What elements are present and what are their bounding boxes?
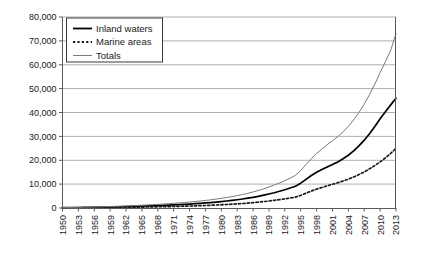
- x-tick-label: 2010: [376, 215, 386, 235]
- x-tick-label: 1959: [106, 215, 116, 235]
- legend: Inland watersMarine areasTotals: [67, 18, 163, 62]
- x-tick-label: 1980: [217, 215, 227, 235]
- x-tick-label: 1992: [280, 215, 290, 235]
- x-tick-label: 1977: [201, 215, 211, 235]
- line-chart: 010,00020,00030,00040,00050,00060,00070,…: [0, 0, 422, 263]
- y-tick-label: 10,000: [29, 179, 57, 189]
- x-tick-label: 1989: [264, 215, 274, 235]
- y-tick-label: 70,000: [29, 36, 57, 46]
- x-tick-label: 1971: [169, 215, 179, 235]
- x-tick-label: 1950: [58, 215, 68, 235]
- y-tick-label: 80,000: [29, 12, 57, 22]
- x-tick-label: 1998: [312, 215, 322, 235]
- x-axis-tick-labels: 1950195319561959196219651968197119741977…: [58, 215, 402, 235]
- x-tick-label: 1956: [90, 215, 100, 235]
- series-line-inland-waters: [63, 98, 397, 208]
- y-tick-label: 40,000: [29, 108, 57, 118]
- legend-label-marine-areas: Marine areas: [96, 36, 152, 47]
- legend-label-totals: Totals: [96, 50, 121, 61]
- x-tick-label: 1968: [153, 215, 163, 235]
- y-tick-label: 20,000: [29, 155, 57, 165]
- y-tick-label: 60,000: [29, 60, 57, 70]
- x-tick-label: 1965: [137, 215, 147, 235]
- y-tick-label: 50,000: [29, 84, 57, 94]
- x-tick-label: 1986: [249, 215, 259, 235]
- x-tick-label: 1974: [185, 215, 195, 235]
- x-tick-label: 1983: [233, 215, 243, 235]
- x-tick-label: 2007: [360, 215, 370, 235]
- x-tick-label: 1953: [74, 215, 84, 235]
- x-tick-label: 1995: [296, 215, 306, 235]
- x-tick-label: 2001: [328, 215, 338, 235]
- chart-figure: 010,00020,00030,00040,00050,00060,00070,…: [0, 0, 422, 263]
- x-tick-label: 1962: [121, 215, 131, 235]
- legend-label-inland-waters: Inland waters: [96, 23, 153, 34]
- x-tick-label: 2013: [391, 215, 401, 235]
- x-tick-label: 2004: [344, 215, 354, 235]
- y-tick-label: 30,000: [29, 132, 57, 142]
- y-axis-tick-labels: 010,00020,00030,00040,00050,00060,00070,…: [29, 12, 57, 213]
- y-tick-label: 0: [51, 203, 56, 213]
